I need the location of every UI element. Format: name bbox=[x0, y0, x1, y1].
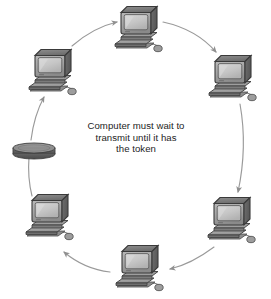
arc-bottomleft-to-token bbox=[29, 157, 32, 196]
node-bottom[interactable] bbox=[116, 246, 163, 291]
node-top-left[interactable] bbox=[29, 50, 76, 95]
arrow-token-to-topleft bbox=[31, 97, 44, 140]
node-bottom-left[interactable] bbox=[26, 195, 73, 240]
arrow-top-to-topright bbox=[163, 22, 216, 52]
node-top-right[interactable] bbox=[209, 56, 256, 101]
arrow-bottomright-to-bottom bbox=[170, 247, 214, 269]
arrow-topleft-to-top bbox=[72, 22, 117, 46]
node-bottom-right[interactable] bbox=[208, 198, 255, 243]
token-disc bbox=[13, 143, 55, 159]
arrow-bottom-to-bottomleft bbox=[64, 252, 110, 272]
arrow-topright-to-bottomright bbox=[238, 104, 243, 192]
diagram-caption: Computer must wait to transmit until it … bbox=[68, 120, 204, 155]
diagram-canvas: Computer must wait to transmit until it … bbox=[0, 0, 271, 299]
node-top[interactable] bbox=[115, 7, 162, 52]
